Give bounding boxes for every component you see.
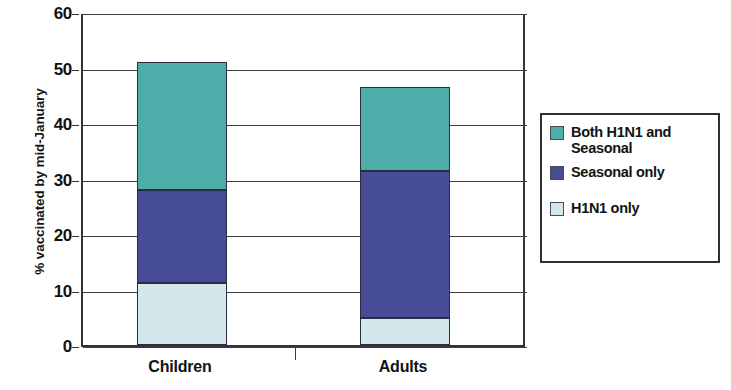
legend: Both H1N1 and SeasonalSeasonal onlyH1N1 … bbox=[540, 113, 720, 263]
bar-segment-both-h1n1-and-seasonal bbox=[360, 87, 450, 171]
legend-label: Both H1N1 and Seasonal bbox=[571, 124, 712, 157]
legend-swatch-icon bbox=[550, 126, 564, 140]
bar-adults bbox=[360, 87, 450, 345]
y-axis-tick-mark bbox=[72, 125, 79, 126]
gridline bbox=[83, 14, 527, 15]
bar-segment-seasonal-only bbox=[360, 171, 450, 318]
stacked-bar-chart: % vaccinated by mid-January 605040302010… bbox=[0, 0, 731, 390]
x-axis-label-adults: Adults bbox=[313, 358, 493, 376]
bar-children bbox=[137, 62, 227, 345]
y-axis-tick-label: 10 bbox=[12, 282, 72, 302]
y-axis-tick-column: 6050403020100 bbox=[8, 14, 72, 347]
y-axis-tick-label: 20 bbox=[12, 226, 72, 246]
y-axis-tick-mark bbox=[72, 292, 79, 293]
legend-label: H1N1 only bbox=[571, 200, 639, 216]
y-axis-tick-label: 40 bbox=[12, 115, 72, 135]
y-axis-tick-mark bbox=[72, 347, 79, 348]
y-axis-tick-mark bbox=[72, 181, 79, 182]
bar-segment-h1n1-only bbox=[137, 283, 227, 345]
y-axis-tick-mark bbox=[72, 14, 79, 15]
gridline bbox=[83, 347, 527, 348]
y-axis-tick-label: 60 bbox=[12, 4, 72, 24]
legend-swatch-icon bbox=[550, 202, 564, 216]
bar-segment-both-h1n1-and-seasonal bbox=[137, 62, 227, 190]
y-axis-tick-label: 0 bbox=[12, 337, 72, 357]
legend-item: Both H1N1 and Seasonal bbox=[550, 124, 712, 157]
legend-label: Seasonal only bbox=[571, 164, 665, 180]
x-axis-category-tick bbox=[295, 347, 296, 360]
y-axis-tick-mark bbox=[72, 236, 79, 237]
bar-segment-seasonal-only bbox=[137, 190, 227, 283]
y-axis-tick-label: 50 bbox=[12, 60, 72, 80]
legend-item: H1N1 only bbox=[550, 200, 712, 216]
legend-item: Seasonal only bbox=[550, 164, 712, 180]
bar-segment-h1n1-only bbox=[360, 318, 450, 345]
legend-swatch-icon bbox=[550, 166, 564, 180]
y-axis-tick-label: 30 bbox=[12, 171, 72, 191]
x-axis-label-children: Children bbox=[90, 358, 270, 376]
plot-area bbox=[81, 14, 525, 347]
y-axis-tick-mark bbox=[72, 70, 79, 71]
